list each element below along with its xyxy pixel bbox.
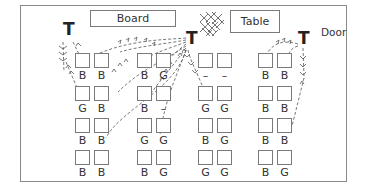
seat-label: G — [217, 135, 232, 146]
desk — [198, 150, 213, 165]
desk — [94, 150, 109, 165]
crosshatch-area — [200, 12, 224, 36]
seat-label: B — [258, 135, 273, 146]
desk — [217, 118, 232, 133]
desk — [75, 118, 90, 133]
seat-label: B — [94, 135, 109, 146]
desk — [94, 86, 109, 101]
seat-label: – — [156, 103, 171, 114]
seat-label: G — [217, 167, 232, 178]
seat-label: – — [198, 70, 213, 81]
seat-label: G — [198, 103, 213, 114]
seat-label: B — [277, 103, 292, 114]
movement-arrows — [0, 0, 365, 192]
desk — [198, 53, 213, 68]
desk — [258, 53, 273, 68]
seat-label: B — [198, 135, 213, 146]
desk — [156, 118, 171, 133]
desk — [217, 150, 232, 165]
seat-label: B — [258, 70, 273, 81]
desk — [198, 118, 213, 133]
desk — [137, 150, 152, 165]
desk — [258, 86, 273, 101]
seat-label: G — [156, 167, 171, 178]
desk — [198, 86, 213, 101]
desk — [277, 53, 292, 68]
seat-label: B — [94, 70, 109, 81]
desk — [156, 86, 171, 101]
desk — [277, 86, 292, 101]
seat-label: G — [75, 103, 90, 114]
seat-label: G — [137, 135, 152, 146]
desk — [137, 86, 152, 101]
desk — [217, 86, 232, 101]
desk — [75, 150, 90, 165]
seat-label: B — [137, 167, 152, 178]
seat-label: B — [137, 70, 152, 81]
seat-label: – — [217, 70, 232, 81]
seat-label: G — [277, 167, 292, 178]
seat-label: B — [137, 103, 152, 114]
seat-label: B — [75, 70, 90, 81]
seat-label: B — [258, 167, 273, 178]
seat-label: G — [198, 167, 213, 178]
seat-label: B — [277, 135, 292, 146]
desk — [277, 150, 292, 165]
desk — [137, 53, 152, 68]
desk — [94, 118, 109, 133]
seat-label: B — [258, 103, 273, 114]
desk — [94, 53, 109, 68]
seat-label: B — [75, 135, 90, 146]
seat-label: B — [277, 70, 292, 81]
desk — [217, 53, 232, 68]
seat-label: G — [217, 103, 232, 114]
seat-label: B — [94, 167, 109, 178]
desk — [137, 118, 152, 133]
desk — [258, 150, 273, 165]
desk — [156, 150, 171, 165]
seat-label: G — [156, 70, 171, 81]
seat-label: B — [75, 167, 90, 178]
desk — [75, 86, 90, 101]
seat-label: B — [94, 103, 109, 114]
desk — [258, 118, 273, 133]
seat-label: G — [156, 135, 171, 146]
desk — [75, 53, 90, 68]
desk — [277, 118, 292, 133]
desk — [156, 53, 171, 68]
